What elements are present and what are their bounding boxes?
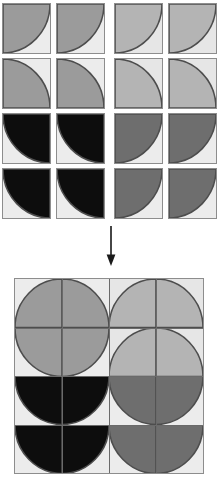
tile-row3-col4[interactable] xyxy=(168,113,217,164)
tile-row1-col3[interactable] xyxy=(114,3,163,54)
tile-row2-col4[interactable] xyxy=(168,58,217,109)
tile-row4-col1[interactable] xyxy=(2,168,51,219)
tile-row3-col1[interactable] xyxy=(2,113,51,164)
tile-row4-col2[interactable] xyxy=(56,168,105,219)
cell-row2-col2[interactable] xyxy=(62,328,109,377)
cell-row3-col2[interactable] xyxy=(62,376,109,425)
assembly-seam-horizontal xyxy=(15,328,203,329)
cell-row4-col1[interactable] xyxy=(15,425,62,474)
cell-row1-col4[interactable] xyxy=(156,279,203,328)
cell-row2-col3[interactable] xyxy=(109,328,156,377)
tile-row3-col3[interactable] xyxy=(114,113,163,164)
arrow-shaft xyxy=(110,226,112,255)
cell-row4-col2[interactable] xyxy=(62,425,109,474)
down-arrow-icon xyxy=(104,226,118,266)
cell-row3-col1[interactable] xyxy=(15,376,62,425)
tile-row2-col2[interactable] xyxy=(56,58,105,109)
tile-row1-col4[interactable] xyxy=(168,3,217,54)
tile-row3-col2[interactable] xyxy=(56,113,105,164)
tile-row2-col3[interactable] xyxy=(114,58,163,109)
assembly-seam-horizontal xyxy=(15,376,203,377)
figure-root xyxy=(0,0,218,480)
cell-row1-col2[interactable] xyxy=(62,279,109,328)
cell-row3-col3[interactable] xyxy=(109,376,156,425)
cell-row2-col1[interactable] xyxy=(15,328,62,377)
cell-row4-col3[interactable] xyxy=(109,425,156,474)
tile-row1-col1[interactable] xyxy=(2,3,51,54)
cell-row3-col4[interactable] xyxy=(156,376,203,425)
tile-row4-col3[interactable] xyxy=(114,168,163,219)
cell-row1-col3[interactable] xyxy=(109,279,156,328)
cell-row1-col1[interactable] xyxy=(15,279,62,328)
cell-row2-col4[interactable] xyxy=(156,328,203,377)
tile-row4-col4[interactable] xyxy=(168,168,217,219)
assembled-square xyxy=(14,278,204,474)
arrow-head xyxy=(107,255,116,267)
tile-row2-col1[interactable] xyxy=(2,58,51,109)
cell-row4-col4[interactable] xyxy=(156,425,203,474)
assembly-seam-horizontal xyxy=(15,425,203,426)
tile-row1-col2[interactable] xyxy=(56,3,105,54)
separated-tiles xyxy=(2,3,216,223)
